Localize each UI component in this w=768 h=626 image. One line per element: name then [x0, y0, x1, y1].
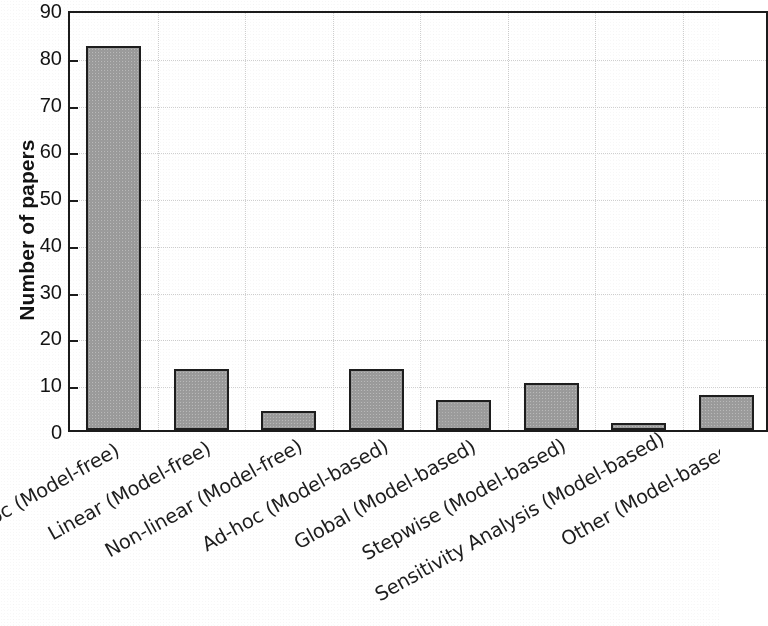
gridline-vertical — [508, 13, 509, 430]
gridline-vertical — [158, 13, 159, 430]
bar — [611, 423, 666, 430]
y-axis-tick — [70, 294, 78, 296]
y-axis-tick — [70, 387, 78, 389]
gridline-vertical — [595, 13, 596, 430]
gridline-horizontal — [70, 107, 766, 108]
bar — [436, 400, 491, 430]
gridline-vertical — [245, 13, 246, 430]
gridline-vertical — [420, 13, 421, 430]
y-axis-tick-label: 80 — [0, 48, 62, 68]
y-axis-tick — [70, 340, 78, 342]
gridline-horizontal — [70, 294, 766, 295]
y-axis-tick-label: 70 — [0, 95, 62, 115]
bar — [86, 46, 141, 430]
bar — [524, 383, 579, 430]
y-axis-tick-label: 10 — [0, 375, 62, 395]
gridline-vertical — [683, 13, 684, 430]
y-axis-tick-label: 90 — [0, 1, 62, 21]
gridline-horizontal — [70, 200, 766, 201]
bar — [261, 411, 316, 430]
y-axis-tick — [70, 247, 78, 249]
gridline-vertical — [333, 13, 334, 430]
y-axis-tick-label: 20 — [0, 328, 62, 348]
bar — [174, 369, 229, 430]
y-axis-tick — [70, 107, 78, 109]
gridline-horizontal — [70, 340, 766, 341]
gridline-horizontal — [70, 60, 766, 61]
bar — [699, 395, 754, 430]
gridline-horizontal — [70, 247, 766, 248]
x-axis-tick-labels: oc (Model-free)Linear (Model-free)Non-li… — [0, 432, 720, 626]
y-axis-tick-label: 50 — [0, 188, 62, 208]
y-axis-tick-label: 30 — [0, 282, 62, 302]
y-axis-tick — [70, 153, 78, 155]
y-axis-tick-label: 40 — [0, 235, 62, 255]
y-axis-tick — [70, 60, 78, 62]
y-axis-tick — [70, 200, 78, 202]
bar — [349, 369, 404, 430]
gridline-horizontal — [70, 153, 766, 154]
y-axis-tick-label: 60 — [0, 141, 62, 161]
plot-area — [68, 11, 768, 432]
